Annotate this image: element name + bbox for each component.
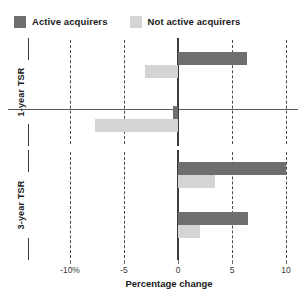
bar <box>178 225 200 238</box>
chart-root: Active acquirers Not active acquirers 1-… <box>0 0 298 303</box>
bar <box>145 65 178 78</box>
bar <box>178 175 215 188</box>
x-axis-tick-label: 0 <box>176 265 181 275</box>
x-axis-tick-label: 5 <box>230 265 235 275</box>
chart-legend: Active acquirers Not active acquirers <box>14 14 240 30</box>
bar <box>178 162 286 175</box>
panel-bracket <box>28 124 29 146</box>
panel-1-year-tsr: AveragegrowthMediangrowth <box>40 38 298 146</box>
plot-area: AveragegrowthMediangrowth AveragegrowthM… <box>40 38 298 260</box>
legend-label: Not active acquirers <box>148 17 241 27</box>
bar <box>178 212 248 225</box>
gridline <box>286 40 287 144</box>
legend-swatch-icon <box>130 16 142 28</box>
panel-bracket <box>28 150 29 172</box>
legend-swatch-icon <box>14 16 26 28</box>
bar <box>178 52 247 65</box>
x-axis-tick <box>286 260 287 264</box>
panel-bracket <box>28 238 29 260</box>
gridline <box>286 152 287 258</box>
legend-item-not-active-acquirers: Not active acquirers <box>130 16 241 28</box>
x-axis-tick <box>124 260 125 264</box>
panel-bracket <box>28 38 29 60</box>
x-axis: Percentage change -10%-50510 <box>40 260 298 303</box>
x-axis-tick-label: -5 <box>120 265 128 275</box>
panel-3-year-tsr: AveragegrowthMediangrowth <box>40 150 298 260</box>
panel-title-1-year-tsr: 1-year TSR <box>8 38 34 146</box>
x-axis-tick <box>70 260 71 264</box>
bar <box>95 119 178 132</box>
x-axis-tick-label: -10% <box>60 265 80 275</box>
panel-title-label: 3-year TSR <box>16 180 26 229</box>
x-axis-tick <box>178 260 179 264</box>
x-axis-tick-label: 10 <box>281 265 290 275</box>
panel-title-label: 1-year TSR <box>16 67 26 116</box>
panel-title-3-year-tsr: 3-year TSR <box>8 150 34 260</box>
bar <box>173 106 178 119</box>
gridline <box>70 152 71 258</box>
x-axis-title: Percentage change <box>40 278 298 289</box>
x-axis-tick <box>232 260 233 264</box>
gridline <box>70 40 71 144</box>
legend-label: Active acquirers <box>32 17 108 27</box>
legend-item-active-acquirers: Active acquirers <box>14 16 108 28</box>
gridline <box>124 152 125 258</box>
